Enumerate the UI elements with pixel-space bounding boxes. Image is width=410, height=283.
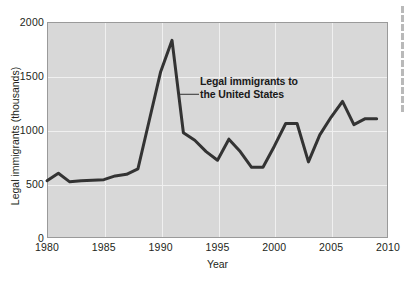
x-tick-label-2005: 2005 [319,241,343,253]
gridline-v-1995 [219,23,220,237]
gridline-h-1000 [48,131,387,132]
gridline-h-500 [48,185,387,186]
gridline-v-1990 [162,23,163,237]
gridline-v-1985 [105,23,106,237]
x-tick-label-1985: 1985 [92,241,116,253]
y-tick-label-2000: 2000 [0,16,44,28]
x-tick-label-2000: 2000 [262,241,286,253]
y-tick-label-1000: 1000 [0,124,44,136]
gridline-v-2000 [275,23,276,237]
y-tick-label-1500: 1500 [0,70,44,82]
y-axis-label: Legal immigrants (thousands) [9,48,21,224]
immigration-line-chart: 0500100015002000 19801985199019952000200… [0,0,410,283]
x-tick-label-1990: 1990 [149,241,173,253]
x-tick-label-2010: 2010 [376,241,400,253]
x-axis-label: Year [47,258,388,270]
page-edge-bleed [401,6,410,136]
x-tick-label-1980: 1980 [35,241,59,253]
y-tick-label-500: 500 [0,178,44,190]
y-axis-ticks: 0500100015002000 [0,22,44,238]
annotation-line-1: Legal immigrants to [200,75,324,88]
plot-area [47,22,388,238]
series-annotation: Legal immigrants to the United States [200,75,324,101]
annotation-line-2: the United States [200,88,324,101]
x-axis-ticks: 1980198519901995200020052010 [47,241,388,257]
x-tick-label-1995: 1995 [205,241,229,253]
gridline-v-2005 [332,23,333,237]
